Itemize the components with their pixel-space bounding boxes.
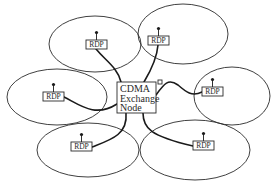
link-line bbox=[143, 113, 193, 146]
rdp-label: RDP bbox=[151, 36, 166, 45]
antenna-tip-icon bbox=[202, 132, 205, 135]
small-port-marker bbox=[158, 80, 162, 84]
link-line bbox=[64, 97, 117, 110]
rdp-station: RDP bbox=[202, 78, 223, 96]
rdp-label: RDP bbox=[46, 92, 61, 101]
antenna-tip-icon bbox=[80, 133, 83, 136]
link-line bbox=[92, 113, 126, 147]
rdp-label: RDP bbox=[89, 40, 104, 49]
rdp-station: RDP bbox=[71, 133, 92, 151]
rdp-station: RDP bbox=[148, 27, 169, 45]
cdma-network-diagram: RDPRDPRDPRDPRDPRDP CDMA Exchange Node bbox=[0, 0, 276, 186]
rdp-station: RDP bbox=[86, 31, 107, 49]
antenna-tip-icon bbox=[211, 78, 214, 81]
cdma-exchange-node: CDMA Exchange Node bbox=[117, 82, 160, 113]
exchange-node-label-line-3: Node bbox=[120, 102, 142, 113]
rdp-label: RDP bbox=[205, 87, 220, 96]
rdp-label: RDP bbox=[196, 141, 211, 150]
cell-top-right bbox=[138, 4, 228, 64]
antenna-tip-icon bbox=[157, 27, 160, 30]
link-line bbox=[96, 49, 121, 82]
link-line bbox=[144, 45, 158, 82]
rdp-label: RDP bbox=[74, 142, 89, 151]
rdp-station: RDP bbox=[43, 83, 64, 101]
antenna-tip-icon bbox=[52, 83, 55, 86]
rdp-station: RDP bbox=[193, 132, 214, 150]
antenna-tip-icon bbox=[95, 31, 98, 34]
